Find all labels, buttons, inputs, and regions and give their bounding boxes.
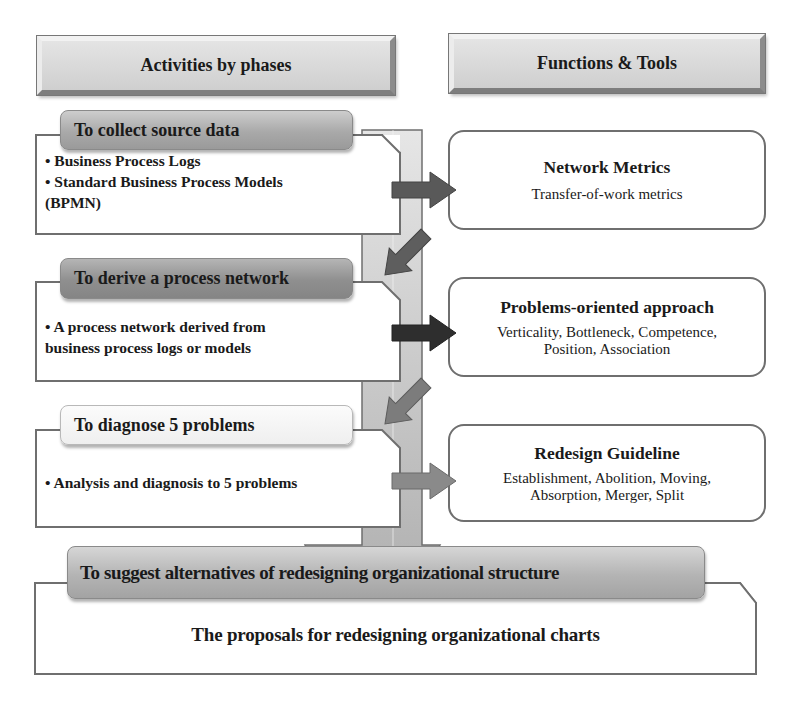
final-box-outline [0,0,796,707]
final-title: To suggest alternatives of redesigning o… [80,562,559,584]
final-content: The proposals for redesigning organizati… [35,624,756,646]
final-content-text: The proposals for redesigning organizati… [191,624,599,645]
final-tab: To suggest alternatives of redesigning o… [67,546,705,599]
